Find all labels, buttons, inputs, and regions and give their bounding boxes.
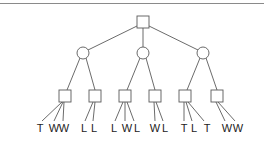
edge (146, 58, 155, 90)
edge (115, 102, 123, 121)
leaf-label: L (91, 122, 97, 134)
leaf-label: L (191, 122, 197, 134)
leaf-label: T (181, 122, 188, 134)
leaf-label: T (37, 122, 44, 134)
chance-node (77, 47, 89, 59)
leaf-label: W (59, 122, 70, 134)
leaf-label: L (162, 122, 168, 134)
edge (187, 58, 200, 90)
edge (127, 58, 140, 90)
decision-node (119, 90, 131, 102)
decision-node (179, 90, 191, 102)
edges (42, 26, 235, 121)
nodes (59, 16, 223, 102)
leaf-label: T (204, 122, 211, 134)
root-decision-node (137, 16, 149, 28)
decision-node (149, 90, 161, 102)
leaf-label: W (222, 122, 233, 134)
game-tree-diagram: T W W L L L W L W L T L T W W (0, 0, 264, 147)
edge (186, 102, 192, 121)
decision-node (89, 90, 101, 102)
edge (63, 102, 64, 121)
leaf-labels: T W W L L L W L W L T L T W W (37, 122, 244, 134)
edge (127, 102, 134, 121)
decision-node (211, 90, 223, 102)
edge (206, 58, 217, 90)
decision-node (59, 90, 71, 102)
leaf-label: W (233, 122, 244, 134)
leaf-label: L (81, 122, 87, 134)
edge (86, 58, 95, 90)
edge (67, 58, 80, 90)
edge (149, 26, 198, 50)
leaf-label: L (111, 122, 117, 134)
leaf-label: W (122, 122, 133, 134)
edge (88, 26, 137, 50)
chance-node (197, 47, 209, 59)
edge (93, 102, 95, 121)
edge (42, 102, 62, 121)
edge (156, 102, 163, 121)
edge (154, 102, 155, 121)
leaf-label: W (150, 122, 161, 134)
edge (188, 102, 204, 121)
edge (85, 102, 93, 121)
chance-node (137, 47, 149, 59)
leaf-label: L (134, 122, 140, 134)
